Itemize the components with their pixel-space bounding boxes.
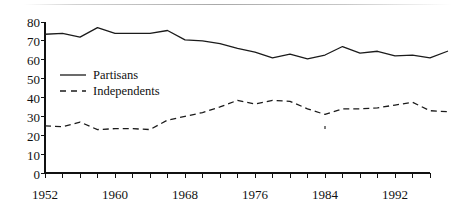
- legend-label-independents: Independents: [93, 84, 160, 98]
- series-line-partisans: [45, 28, 448, 59]
- x-tick-label: 1952: [32, 187, 58, 202]
- x-tick-label: 1968: [172, 187, 198, 202]
- line-chart: 80 70 60 50 40 30 20 10 0 1952 1960 1968…: [0, 0, 452, 214]
- x-tick-label: 1992: [382, 187, 408, 202]
- y-tick-label: 20: [27, 129, 40, 144]
- y-axis-tick-labels: 80 70 60 50 40 30 20 10 0: [27, 15, 40, 182]
- x-tick-label: 1960: [102, 187, 128, 202]
- legend-label-partisans: Partisans: [93, 68, 138, 82]
- scan-artifact-speck: [324, 126, 326, 129]
- scan-artifact-line: [24, 4, 452, 5]
- y-tick-label: 70: [27, 34, 40, 49]
- x-tick-label: 1976: [242, 187, 269, 202]
- y-tick-label: 40: [27, 91, 40, 106]
- chart-legend: Partisans Independents: [60, 68, 160, 98]
- y-tick-label: 60: [27, 53, 40, 68]
- y-tick-label: 30: [27, 110, 40, 125]
- y-tick-label: 80: [27, 15, 40, 30]
- x-axis-tick-labels: 1952 1960 1968 1976 1984 1992: [32, 187, 408, 202]
- chart-axes: [41, 22, 430, 178]
- y-tick-label: 50: [27, 72, 40, 87]
- y-tick-label: 0: [34, 167, 41, 182]
- y-tick-label: 10: [27, 148, 40, 163]
- chart-figure: 80 70 60 50 40 30 20 10 0 1952 1960 1968…: [0, 0, 452, 214]
- series-line-independents: [45, 100, 448, 129]
- x-tick-label: 1984: [312, 187, 339, 202]
